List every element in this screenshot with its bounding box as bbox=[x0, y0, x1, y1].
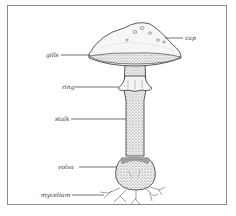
mushroom-illustration bbox=[0, 0, 236, 216]
label-volva: volva bbox=[58, 163, 74, 170]
ring bbox=[118, 76, 152, 92]
volva bbox=[116, 157, 156, 190]
cap bbox=[89, 23, 181, 66]
label-stalk: stalk bbox=[55, 115, 70, 122]
label-mycelium: mycelium bbox=[41, 191, 70, 198]
label-cap: cap bbox=[185, 34, 196, 41]
label-ring: ring bbox=[62, 83, 75, 90]
label-gills: gills bbox=[46, 51, 59, 58]
